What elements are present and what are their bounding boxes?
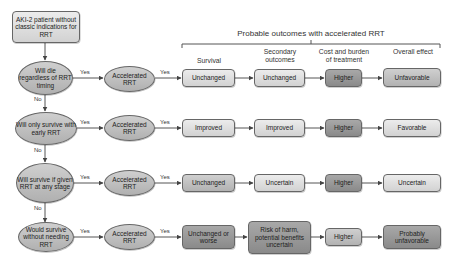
start-text: AKI-2 patient without classic indication… [13,16,79,39]
yes-label: Yes [160,69,170,75]
outcome-secondary-3: Uncertain [254,174,305,192]
start-box: AKI-2 patient without classic indication… [12,11,80,43]
outcome-overall-2: Favorable [383,119,441,137]
question-oval-2: Will only survive with early RRT [15,112,77,145]
outcome-overall-4: Probably unfavorable [383,225,441,249]
yes-label: Yes [80,228,90,234]
outcome-cost-1: Higher [325,69,362,87]
outcome-secondary-2: Improved [254,119,305,137]
no-label: No [34,96,42,102]
question-oval-1: Will die regardless of RRT timing [18,61,73,95]
question-text: Will only survive with early RRT [16,121,76,136]
yes-label: Yes [80,119,90,125]
outcome-overall-1: Unfavorable [383,68,441,87]
yes-label: Yes [160,174,170,180]
question-text: Will survive if given RRT at any stage [17,176,73,191]
outcome-cost-3: Higher [325,174,362,192]
accelerated-rrt-oval-1: Accelerated RRT [104,66,155,92]
yes-label: Yes [80,174,90,180]
action-text: Accelerated RRT [105,176,154,191]
action-text: Accelerated RRT [105,230,154,245]
column-header-cost: Cost and burden of treatment [316,48,372,64]
accelerated-rrt-oval-2: Accelerated RRT [104,115,155,141]
outcome-survival-4: Unchanged or worse [182,225,235,249]
yes-label: Yes [160,228,170,234]
outcome-survival-3: Unchanged [182,174,235,192]
accelerated-rrt-oval-3: Accelerated RRT [104,170,155,196]
yes-label: Yes [160,119,170,125]
question-text: Would survive without needing RRT [19,226,73,249]
column-header-survival: Survival [180,57,238,65]
outcome-survival-2: Improved [182,119,235,137]
action-text: Accelerated RRT [105,121,154,136]
outcome-survival-1: Unchanged [182,69,235,87]
yes-label: Yes [80,69,90,75]
outcome-secondary-1: Unchanged [254,69,305,87]
question-text: Will die regardless of RRT timing [19,67,72,90]
outcome-cost-4: Higher [325,228,362,246]
accelerated-rrt-oval-4: Accelerated RRT [104,224,155,250]
column-header-secondary: Secondary outcomes [252,48,308,64]
column-header-overall: Overall effect [388,48,438,56]
question-oval-4: Would survive without needing RRT [18,222,74,252]
no-label: No [34,205,42,211]
question-oval-3: Will survive if given RRT at any stage [16,163,74,203]
action-text: Accelerated RRT [105,72,154,87]
outcomes-title: Probable outcomes with accelerated RRT [182,29,440,38]
no-label: No [34,147,42,153]
outcome-cost-2: Higher [325,119,362,137]
outcome-secondary-4: Risk of harm, potential benefits uncerta… [248,221,311,254]
outcome-overall-3: Uncertain [383,174,441,192]
